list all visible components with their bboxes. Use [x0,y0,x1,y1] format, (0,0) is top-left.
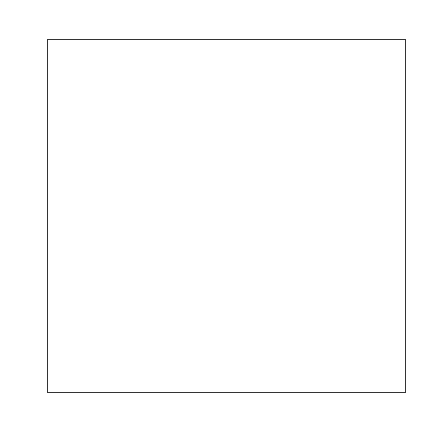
pca-biplot [0,0,441,447]
plot-frame [47,39,406,393]
